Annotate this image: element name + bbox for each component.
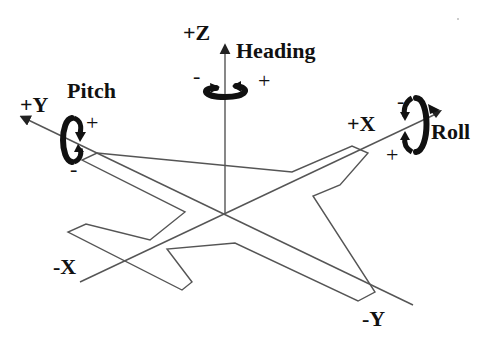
x-axis [80,113,438,282]
pitch-pos-sign: + [86,112,98,134]
roll-label: Roll [431,121,470,143]
heading-label: Heading [236,40,315,62]
airplane-outline [68,146,375,301]
z-pos-label: +Z [183,22,210,44]
x-neg-label: -X [53,256,76,278]
y-neg-label: -Y [362,308,385,330]
roll-pos-sign: + [386,144,398,166]
y-axis [22,117,413,305]
heading-pos-sign: + [258,70,270,92]
pitch-label: Pitch [67,80,116,102]
x-pos-label: +X [347,113,375,135]
pitch-neg-sign: - [70,158,77,180]
speck [457,18,459,20]
heading-neg-sign: - [193,65,200,87]
roll-neg-sign: - [397,90,404,112]
axes-diagram: +Z +Y -Y +X -X Heading - + Pitch + - Rol… [0,0,501,338]
y-pos-label: +Y [20,94,48,116]
